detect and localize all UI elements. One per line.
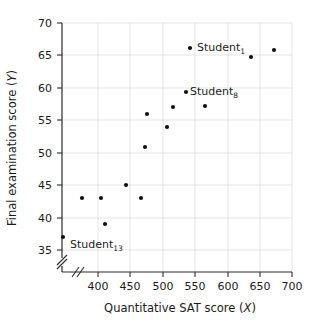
annotation-student-13-sub: 13 <box>113 244 123 253</box>
data-point-student-1 <box>188 46 192 50</box>
data-point <box>139 196 143 200</box>
data-point <box>145 112 149 116</box>
data-point <box>203 104 207 108</box>
data-point <box>103 222 107 226</box>
data-point <box>143 145 147 149</box>
annotation-student-13-text: Student <box>70 238 114 251</box>
y-axis-label: Final examination score (Y) <box>5 70 19 226</box>
y-tick-label-60: 60 <box>38 82 52 95</box>
x-axis-label-close: ) <box>251 301 256 315</box>
y-tick-label-40: 40 <box>38 212 52 225</box>
x-tick-label-600: 600 <box>218 280 239 293</box>
x-tick-labels: 400 450 500 550 600 650 700 <box>88 280 303 293</box>
data-point <box>272 48 276 52</box>
annotation-student-1: Student1 <box>197 41 245 56</box>
y-axis-label-close: ) <box>5 70 19 75</box>
scatter-plot-figure: 70 65 60 55 50 45 40 35 400 450 500 550 … <box>0 0 309 325</box>
y-tick-label-70: 70 <box>38 17 52 30</box>
data-point <box>165 125 169 129</box>
data-point <box>171 105 175 109</box>
x-tick-label-650: 650 <box>250 280 271 293</box>
x-tick-label-400: 400 <box>88 280 109 293</box>
y-tick-label-65: 65 <box>38 49 52 62</box>
annotation-student-8: Student8 <box>190 85 238 100</box>
y-tick-label-35: 35 <box>38 244 52 257</box>
x-tick-label-500: 500 <box>153 280 174 293</box>
x-tick-label-700: 700 <box>282 280 303 293</box>
data-point <box>80 196 84 200</box>
annotation-student-1-text: Student <box>197 41 241 54</box>
data-point <box>124 183 128 187</box>
annotation-student-8-sub: 8 <box>233 91 238 100</box>
data-point <box>249 55 253 59</box>
x-tick-label-550: 550 <box>185 280 206 293</box>
y-axis-label-main: Final examination score ( <box>5 82 19 226</box>
y-tick-label-55: 55 <box>38 114 52 127</box>
x-axis-label: Quantitative SAT score (X) <box>104 301 256 315</box>
data-point <box>184 90 188 94</box>
annotation-student-1-sub: 1 <box>240 47 245 56</box>
x-tick-label-450: 450 <box>120 280 141 293</box>
annotation-student-8-text: Student <box>190 85 234 98</box>
data-point <box>61 235 65 239</box>
y-tick-label-45: 45 <box>38 179 52 192</box>
y-tick-label-50: 50 <box>38 147 52 160</box>
x-axis-label-main: Quantitative SAT score ( <box>104 301 243 315</box>
data-point <box>99 196 103 200</box>
